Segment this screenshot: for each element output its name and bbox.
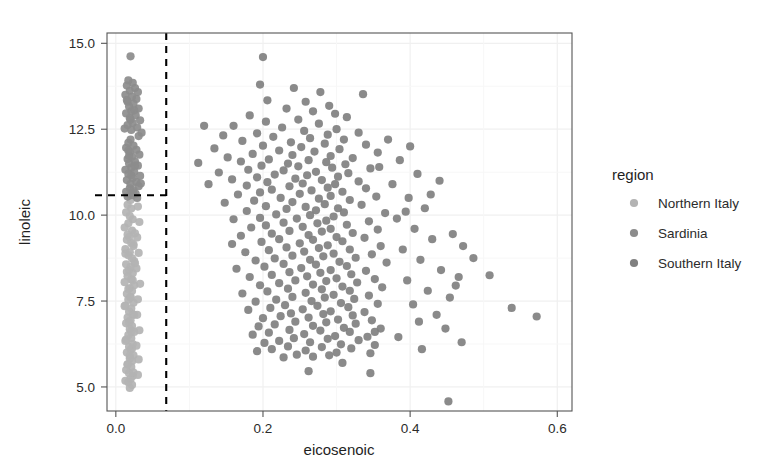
data-point (244, 306, 252, 314)
data-point (324, 131, 332, 139)
y-tick-label: 5.0 (76, 380, 95, 395)
data-point (325, 351, 333, 359)
data-point (265, 155, 273, 163)
data-point (368, 250, 376, 258)
data-point (291, 175, 299, 183)
data-point (243, 181, 251, 189)
data-point (300, 127, 308, 135)
data-point (316, 269, 324, 277)
data-point (360, 234, 368, 242)
data-point (393, 214, 401, 222)
legend-swatch-icon (630, 199, 638, 207)
data-point (275, 146, 283, 154)
data-point (335, 258, 343, 266)
data-point (291, 318, 299, 326)
data-point (337, 299, 345, 307)
data-point (123, 96, 131, 104)
data-point (300, 247, 308, 255)
data-point (346, 196, 354, 204)
data-point (228, 240, 236, 248)
data-point (126, 294, 134, 302)
data-point (124, 361, 132, 369)
data-point (321, 140, 329, 148)
data-point (134, 295, 142, 303)
data-point (130, 106, 138, 114)
data-point (246, 273, 254, 281)
data-point (410, 225, 418, 233)
data-point (340, 135, 348, 143)
data-point (263, 96, 271, 104)
legend-title: region (612, 166, 654, 183)
data-point (318, 285, 326, 293)
data-point (132, 264, 140, 272)
data-point (355, 336, 363, 344)
data-point (309, 280, 317, 288)
data-point (228, 175, 236, 183)
data-point (124, 231, 132, 239)
data-point (455, 273, 463, 281)
data-point (259, 314, 267, 322)
data-point (127, 327, 135, 335)
data-point (352, 320, 360, 328)
data-point (232, 265, 240, 273)
legend-item-label: Sardinia (658, 226, 708, 241)
data-point (279, 219, 287, 227)
data-point (131, 162, 139, 170)
data-point (357, 201, 365, 209)
data-point (324, 184, 332, 192)
data-point (200, 122, 208, 130)
data-point (402, 208, 410, 216)
data-point (254, 322, 262, 330)
data-point (321, 200, 329, 208)
data-point (287, 309, 295, 317)
data-point (366, 349, 374, 357)
data-point (133, 233, 141, 241)
data-point (374, 300, 382, 308)
data-point (284, 159, 292, 167)
data-point (238, 137, 246, 145)
data-point (349, 311, 357, 319)
data-point (355, 129, 363, 137)
data-point (135, 151, 143, 159)
data-point (346, 287, 354, 295)
data-point (424, 287, 432, 295)
data-point (372, 192, 380, 200)
data-point (275, 337, 283, 345)
data-point (459, 242, 467, 250)
data-point (262, 202, 270, 210)
data-point (396, 156, 404, 164)
data-point (332, 274, 340, 282)
data-point (126, 116, 134, 124)
data-point (352, 254, 360, 262)
data-point (444, 397, 452, 405)
data-point (204, 180, 212, 188)
data-point (133, 311, 141, 319)
data-point (306, 338, 314, 346)
data-point (126, 52, 134, 60)
data-point (330, 250, 338, 258)
data-point (330, 291, 338, 299)
data-point (288, 151, 296, 159)
data-point (136, 280, 144, 288)
data-point (126, 352, 134, 360)
legend-swatch-icon (630, 259, 638, 267)
data-point (309, 107, 317, 115)
data-point (366, 164, 374, 172)
data-point (237, 232, 245, 240)
data-point (249, 150, 257, 158)
data-point (302, 346, 310, 354)
data-point (229, 215, 237, 223)
data-point (331, 110, 339, 118)
data-point (324, 241, 332, 249)
data-point (282, 243, 290, 251)
data-point (458, 338, 466, 346)
data-point (362, 184, 370, 192)
data-point (344, 169, 352, 177)
data-point (322, 277, 330, 285)
data-point (278, 123, 286, 131)
data-point (331, 332, 339, 340)
data-point (194, 159, 202, 167)
data-point (260, 263, 268, 271)
data-point (359, 90, 367, 98)
data-point (237, 157, 245, 165)
